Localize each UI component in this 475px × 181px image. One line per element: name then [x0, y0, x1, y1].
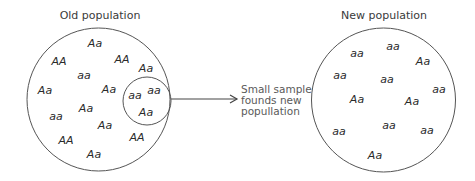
new-population-genotype: aa: [332, 125, 346, 138]
old-population-genotype: aa: [49, 110, 63, 123]
sample-genotype: Aa: [138, 106, 154, 119]
old-population-genotype: AA: [113, 53, 129, 66]
new-population-genotype: aa: [333, 69, 347, 82]
new-population: New population aaaaAaaaaaaaAaAaaaaaaaAa: [312, 9, 456, 172]
new-population-genotype: aa: [350, 47, 364, 60]
old-population: Old population AaAAAAAaaaAaAaAaaaAaAAAAA…: [27, 9, 171, 171]
new-population-title: New population: [341, 9, 427, 22]
old-population-genotype: Aa: [78, 102, 94, 115]
new-population-genotype: Aa: [404, 95, 420, 108]
old-population-genotype: Aa: [87, 37, 103, 50]
arrow: [171, 95, 237, 103]
founder-effect-diagram: Old population AaAAAAAaaaAaAaAaaaAaAAAAA…: [0, 0, 475, 181]
old-population-genotype: aa: [77, 69, 91, 82]
old-population-genotype: Aa: [86, 148, 102, 161]
old-population-genotype: AA: [57, 134, 73, 147]
new-population-individuals: aaaaAaaaaaaaAaAaaaaaaaAa: [332, 40, 446, 162]
old-population-title: Old population: [60, 9, 141, 22]
new-population-genotype: aa: [380, 73, 394, 86]
old-population-genotype: AA: [128, 131, 144, 144]
new-population-genotype: Aa: [367, 149, 383, 162]
sample-genotype: aa: [147, 84, 161, 97]
new-population-genotype: Aa: [349, 93, 365, 106]
new-population-genotype: aa: [386, 40, 400, 53]
new-population-circle: [312, 28, 456, 172]
arrow-label: Small sample founds new popullation: [241, 83, 312, 117]
new-population-genotype: Aa: [415, 55, 431, 68]
sample-genotype: aa: [128, 89, 142, 102]
new-population-genotype: aa: [420, 124, 434, 137]
old-population-genotype: Aa: [138, 62, 154, 75]
arrow-label-line-3: popullation: [241, 105, 300, 117]
old-population-genotype: Aa: [101, 83, 117, 96]
old-population-genotype: AA: [50, 55, 66, 68]
old-population-genotype: Aa: [97, 119, 113, 132]
new-population-genotype: aa: [432, 83, 446, 96]
sample-individuals: aaaaAa: [128, 84, 161, 119]
new-population-genotype: aa: [382, 119, 396, 132]
old-population-genotype: Aa: [37, 84, 53, 97]
